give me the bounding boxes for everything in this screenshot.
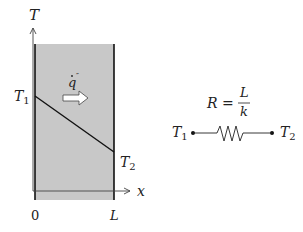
thermal-resistance-diagram: T x 0 L T1 T2 q ″ R = L k T1 T2 <box>0 0 303 232</box>
heat-flux-dot <box>71 75 73 77</box>
resistance-label: R = <box>206 95 234 111</box>
circuit-right-node-label: T2 <box>280 124 296 142</box>
resistance-denominator: k <box>240 104 248 119</box>
right-temperature-label: T2 <box>120 154 136 172</box>
resistance-numerator: L <box>239 85 249 100</box>
t-axis-label: T <box>29 6 40 24</box>
x-axis-label: x <box>137 183 145 199</box>
x-end-label: L <box>109 208 119 223</box>
left-temperature-label: T1 <box>14 88 30 106</box>
x-start-label: 0 <box>31 208 39 223</box>
heat-flux-double-prime: ″ <box>76 71 79 80</box>
circuit-left-node-label: T1 <box>172 124 188 142</box>
wall-slab <box>35 44 114 200</box>
resistor-icon <box>193 126 272 141</box>
